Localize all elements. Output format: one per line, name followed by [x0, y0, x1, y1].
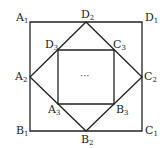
label-C3: C3 — [113, 38, 126, 52]
label-A1: A1 — [15, 11, 28, 25]
nested-squares-diagram: ··· A1 D2 D1 D3 C3 A2 C2 A3 B3 B1 B2 C1 — [0, 0, 165, 148]
label-C1: C1 — [145, 124, 158, 138]
label-B2: B2 — [81, 133, 94, 147]
label-B1: B1 — [16, 124, 29, 138]
label-D1: D1 — [145, 11, 158, 25]
center-ellipsis: ··· — [80, 70, 90, 81]
label-A2: A2 — [14, 70, 27, 84]
label-D2: D2 — [81, 8, 94, 22]
label-B3: B3 — [116, 103, 129, 117]
label-D3: D3 — [45, 38, 58, 52]
label-C2: C2 — [144, 70, 157, 84]
